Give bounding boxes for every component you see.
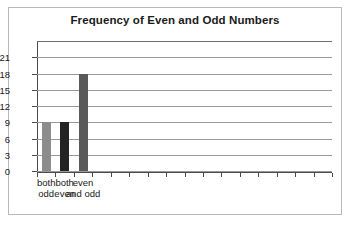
x-category-label-line2: and odd xyxy=(66,189,100,200)
x-category-label-both-odd: bothodd xyxy=(37,178,56,199)
x-axis-category-labels: bothoddbothevenevenand odd xyxy=(0,0,352,225)
chart-screenshot: Frequency of Even and Odd Numbers 036912… xyxy=(0,0,352,225)
x-category-label-line2: odd xyxy=(37,189,56,200)
x-category-label-even-and-odd: evenand odd xyxy=(66,178,100,199)
x-category-label-line1: even xyxy=(73,177,94,188)
x-category-label-line1: both xyxy=(37,177,56,188)
